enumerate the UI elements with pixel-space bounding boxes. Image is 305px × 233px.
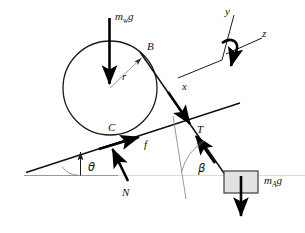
physics-diagram: θ mwg r B C T [0, 0, 305, 233]
block-weight-tail: g [277, 174, 283, 186]
friction-label: f [144, 138, 149, 150]
tension-label-upper: T [197, 123, 204, 135]
normal-label: N [121, 186, 130, 198]
point-b-label: B [147, 40, 154, 52]
normal-arrow [113, 149, 129, 181]
wheel-weight-base: m [115, 10, 123, 22]
beta-label: β [197, 161, 205, 175]
axis-z-label: z [261, 27, 267, 39]
tension-arrow-lower [196, 136, 215, 163]
block-weight-label: mAg [264, 174, 283, 189]
friction-arrow [99, 137, 139, 149]
diagram-canvas: θ mwg r B C T [0, 0, 305, 233]
beta-reference-line [173, 116, 186, 199]
coordinate-axes [178, 15, 262, 78]
axis-x-label: x [181, 80, 187, 92]
block-weight-base: m [264, 174, 272, 186]
wheel-weight-tail: g [128, 10, 134, 22]
tension-arrow-upper [168, 92, 190, 124]
radius-label: r [122, 70, 127, 82]
theta-label: θ [88, 160, 95, 174]
wheel-weight-label: mwg [115, 10, 134, 25]
point-c-label: C [108, 121, 116, 133]
axis-x-line [178, 60, 222, 78]
axis-y-label: y [224, 5, 230, 17]
